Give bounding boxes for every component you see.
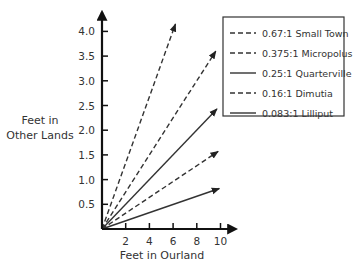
- series-line-0: [102, 24, 175, 229]
- series-line-4: [102, 188, 219, 229]
- chart: 0.51.01.52.02.53.03.54.0 246810 Feet in …: [0, 0, 360, 269]
- x-tick-label: 8: [193, 235, 200, 247]
- legend-label: 0.67:1 Small Town: [262, 28, 349, 39]
- y-axis-title: Feet in Other Lands: [6, 114, 74, 142]
- y-axis-title-line-1: Feet in: [21, 114, 58, 127]
- legend-label: 0.083:1 Lilliput: [262, 108, 333, 119]
- series-line-1: [102, 51, 216, 229]
- axes: 0.51.01.52.02.53.03.54.0 246810: [78, 12, 236, 247]
- chart-canvas: 0.51.01.52.02.53.03.54.0 246810 Feet in …: [0, 0, 360, 269]
- y-tick-label: 0.5: [78, 198, 95, 210]
- y-ticks: 0.51.01.52.02.53.03.54.0: [78, 25, 108, 210]
- x-axis-title: Feet in Ourland: [120, 249, 205, 262]
- x-tick-label: 6: [170, 235, 177, 247]
- x-ticks: 246810: [122, 223, 227, 247]
- y-axis-title-line-2: Other Lands: [6, 129, 74, 142]
- y-tick-label: 3.5: [78, 50, 95, 62]
- y-tick-label: 2.5: [78, 100, 95, 112]
- y-tick-label: 1.5: [78, 149, 95, 161]
- series-line-2: [102, 109, 217, 229]
- y-tick-label: 1.0: [78, 174, 95, 186]
- x-tick-label: 10: [214, 235, 227, 247]
- legend-label: 0.16:1 Dimutia: [262, 88, 333, 99]
- legend: 0.67:1 Small Town0.375:1 Micropolus0.25:…: [223, 17, 353, 119]
- series-line-3: [102, 151, 218, 229]
- x-tick-label: 4: [146, 235, 153, 247]
- series-layer: [102, 24, 219, 229]
- legend-label: 0.25:1 Quarterville: [262, 68, 352, 79]
- y-tick-label: 3.0: [78, 75, 95, 87]
- x-tick-label: 2: [122, 235, 129, 247]
- y-tick-label: 4.0: [78, 25, 95, 37]
- y-tick-label: 2.0: [78, 124, 95, 136]
- legend-label: 0.375:1 Micropolus: [262, 48, 353, 59]
